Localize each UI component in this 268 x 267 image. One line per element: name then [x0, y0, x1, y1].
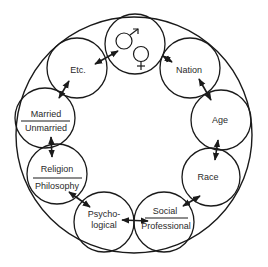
diversity-diagram: Etc. Nation Married Unmarried Age Religi…: [0, 0, 268, 267]
male-symbol-icon: [116, 29, 138, 49]
label-psycho: Psycho-: [88, 209, 121, 219]
label-nation: Nation: [176, 65, 202, 75]
label-philosophy: Philosophy: [35, 181, 80, 191]
arrow-nation-age: [199, 79, 211, 100]
label-etc: Etc.: [70, 65, 86, 75]
label-logical: logical: [91, 220, 117, 230]
label-unmarried: Unmarried: [25, 123, 67, 133]
female-symbol-icon: [134, 47, 149, 71]
label-social: Social: [153, 206, 178, 216]
node-religion: [27, 144, 87, 204]
node-gender: [105, 14, 165, 74]
arrow-gender-nation: [163, 56, 172, 62]
label-age: Age: [212, 115, 228, 125]
label-race: Race: [197, 172, 218, 182]
label-professional: Professional: [141, 221, 191, 231]
arrow-married-religion: [51, 137, 52, 157]
label-married: Married: [31, 109, 62, 119]
label-religion: Religion: [41, 164, 74, 174]
